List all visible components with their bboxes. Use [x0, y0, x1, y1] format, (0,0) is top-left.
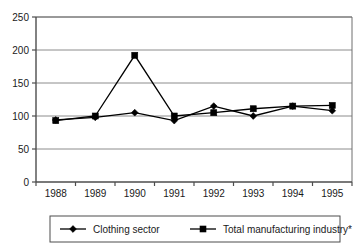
series-1-marker-1994: [290, 103, 296, 109]
series-1-marker-1995: [329, 102, 335, 108]
xtick-label-1993: 1993: [242, 188, 265, 199]
series-1-marker-1991: [171, 113, 177, 119]
ytick-label-250: 250: [12, 12, 29, 23]
xtick-label-1995: 1995: [321, 188, 344, 199]
xtick-label-1990: 1990: [124, 188, 147, 199]
series-1-marker-1992: [211, 110, 217, 116]
series-0-marker-1992: [210, 103, 217, 110]
chart-container: 0501001502002501988198919901991199219931…: [0, 0, 364, 252]
series-0-marker-1990: [131, 109, 138, 116]
xtick-label-1991: 1991: [163, 188, 186, 199]
ytick-label-150: 150: [12, 78, 29, 89]
series-1-marker-1990: [132, 52, 138, 58]
ytick-label-200: 200: [12, 45, 29, 56]
series-1-marker-1988: [53, 118, 59, 124]
xtick-label-1992: 1992: [203, 188, 226, 199]
legend-label-0: Clothing sector: [93, 224, 160, 235]
series-1-marker-1993: [250, 106, 256, 112]
xtick-label-1989: 1989: [84, 188, 107, 199]
ytick-label-0: 0: [23, 177, 29, 188]
series-line-1: [56, 55, 333, 120]
series-0-marker-1993: [250, 113, 257, 120]
legend-marker-square-icon: [200, 226, 206, 232]
ytick-label-100: 100: [12, 111, 29, 122]
xtick-label-1988: 1988: [45, 188, 68, 199]
series-1-marker-1989: [92, 113, 98, 119]
ytick-label-50: 50: [18, 144, 30, 155]
legend-label-1: Total manufacturing industry*: [223, 224, 352, 235]
line-chart: 0501001502002501988198919901991199219931…: [0, 0, 364, 252]
xtick-label-1994: 1994: [282, 188, 305, 199]
